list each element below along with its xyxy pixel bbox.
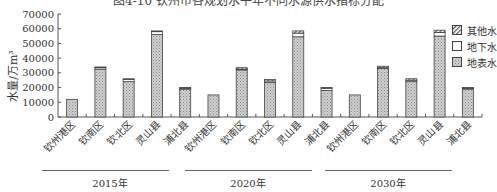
y-tick-label: 50000 xyxy=(22,38,54,49)
y-tick-label: 0 xyxy=(48,112,54,123)
dotted-swatch-icon xyxy=(452,57,462,67)
bar-segment xyxy=(321,91,332,117)
bar-segment xyxy=(208,95,219,117)
bar-segment xyxy=(378,66,389,67)
bar-segment xyxy=(462,88,473,89)
x-axis-labels: 钦州港区钦南区钦北区灵山县浦北县钦州港区钦南区钦北区灵山县浦北县钦州港区钦南区钦… xyxy=(41,118,473,155)
bar-segment xyxy=(151,32,162,35)
bar-segment xyxy=(123,82,134,117)
x-tick-label: 灵山县 xyxy=(416,119,445,148)
bar-segment xyxy=(236,70,247,117)
x-tick-label: 钦州港区 xyxy=(41,119,77,155)
x-tick-label: 钦北区 xyxy=(105,119,134,148)
bar-segment xyxy=(378,68,389,117)
bar-segment xyxy=(123,79,134,80)
y-tick-label: 60000 xyxy=(22,23,54,34)
bars xyxy=(67,30,474,117)
bar-segment xyxy=(151,31,162,32)
bar-segment xyxy=(321,88,332,89)
bar-segment xyxy=(434,36,445,117)
x-tick-label: 钦北区 xyxy=(388,119,417,148)
bar-segment xyxy=(349,95,360,117)
bar-segment xyxy=(293,33,304,37)
bar-segment xyxy=(406,79,417,80)
year-label-2020: 2020年 xyxy=(218,175,278,190)
year-label-2015: 2015年 xyxy=(80,175,140,190)
bar-segment xyxy=(151,35,162,117)
x-tick-label: 钦南区 xyxy=(76,118,106,148)
bar-segment xyxy=(95,67,106,68)
year-group-line-2020 xyxy=(185,170,312,171)
bar-segment xyxy=(265,82,276,117)
year-label-2030: 2030年 xyxy=(358,175,418,190)
legend-item-surface-water: 地表水 xyxy=(452,54,497,70)
y-axis-title: 水量/万m³ xyxy=(4,40,20,112)
bar-segment xyxy=(434,30,445,32)
y-axis-title-wrap: 水量/万m³ xyxy=(4,40,20,110)
bar-segment xyxy=(236,68,247,69)
hatched-swatch-icon xyxy=(452,25,462,35)
legend-item-groundwater: 地下水 xyxy=(452,38,497,54)
x-tick-label: 灵山县 xyxy=(275,119,304,148)
bar-segment xyxy=(180,88,191,89)
x-tick-label: 浦北县 xyxy=(444,118,474,148)
y-tick-label: 10000 xyxy=(22,97,54,108)
y-tick-label: 20000 xyxy=(22,82,54,93)
y-tick-label: 30000 xyxy=(22,67,54,78)
x-tick-label: 钦南区 xyxy=(217,118,247,148)
bar-segment xyxy=(434,32,445,36)
y-tick-label: 70000 xyxy=(22,9,54,20)
bar-segment xyxy=(293,37,304,117)
legend: 其他水 地下水 地表水 xyxy=(452,22,497,70)
bar-segment xyxy=(406,82,417,117)
x-tick-label: 钦北区 xyxy=(246,119,275,148)
legend-item-other-water: 其他水 xyxy=(452,22,497,38)
year-group-line-2030 xyxy=(325,170,452,171)
bar-segment xyxy=(265,79,276,80)
bar-segment xyxy=(293,31,304,33)
white-swatch-icon xyxy=(452,41,462,51)
bar-segment xyxy=(462,89,473,117)
year-group-line-2015 xyxy=(42,170,169,171)
bar-segment xyxy=(180,89,191,117)
bar-segment xyxy=(67,99,78,117)
bar-segment xyxy=(95,69,106,117)
y-tick-label: 40000 xyxy=(22,53,54,64)
x-tick-label: 灵山县 xyxy=(133,119,162,148)
stacked-bar-chart: 010000200003000040000500006000070000 钦州港… xyxy=(0,0,497,192)
x-tick-label: 钦南区 xyxy=(359,118,389,148)
